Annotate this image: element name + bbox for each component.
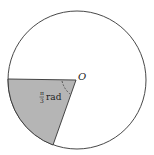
angle-unit: rad xyxy=(46,92,62,102)
center-label-o: O xyxy=(78,71,86,82)
circle-sector-diagram: O π 3 rad xyxy=(0,0,154,155)
angle-denominator: 3 xyxy=(40,97,44,104)
angle-numerator: π xyxy=(40,89,44,96)
